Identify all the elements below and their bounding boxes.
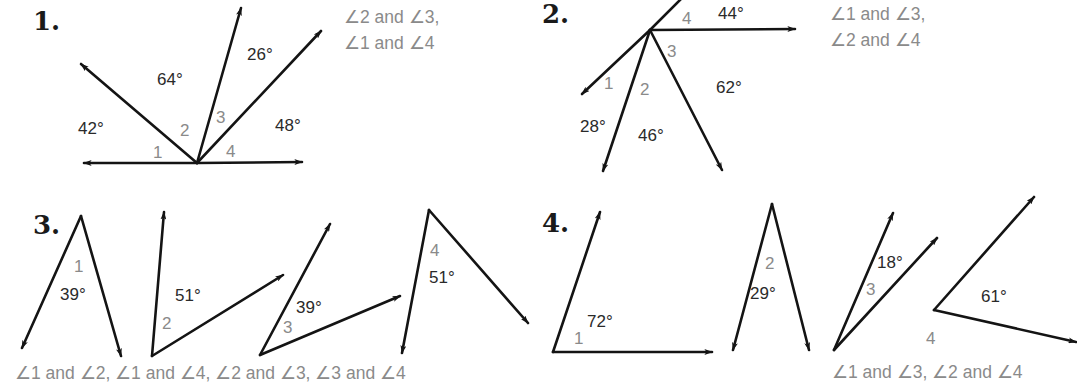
angle-label: 2 — [162, 314, 171, 333]
angle-label: 1 — [574, 329, 583, 348]
problem-number: 3. — [33, 210, 60, 240]
answer-text: ∠2 and ∠3, — [344, 7, 439, 27]
angle-4-diagram — [934, 197, 1076, 342]
problem-3: 3. 1 39° 51° 2 39° 3 4 51° ∠1 and ∠2, ∠1… — [15, 210, 528, 383]
degree-label: 39° — [296, 298, 322, 317]
ray — [934, 310, 1076, 342]
angle-3-diagram — [834, 213, 937, 350]
degree-label: 51° — [429, 268, 455, 287]
ray — [152, 212, 164, 356]
answer-text: ∠1 and ∠3, ∠2 and ∠4 — [832, 362, 1023, 382]
ray — [260, 296, 400, 355]
angle-label: 4 — [430, 241, 439, 260]
degree-label: 44° — [718, 4, 744, 23]
angle-label: 2 — [765, 254, 774, 273]
angle-4-diagram — [402, 210, 528, 353]
ray-right — [650, 29, 795, 30]
degree-label: 29° — [750, 284, 776, 303]
problem-number: 1. — [33, 6, 60, 36]
ray-diagram — [81, 8, 321, 163]
problem-number: 4. — [542, 208, 569, 238]
degree-label: 28° — [580, 117, 606, 136]
angle-label: 4 — [682, 9, 691, 28]
answer-text: ∠1 and ∠3, — [830, 4, 925, 24]
ray — [152, 275, 283, 356]
answer-text: ∠1 and ∠4 — [344, 33, 435, 53]
angle-2-diagram — [733, 204, 809, 350]
ray — [402, 210, 429, 353]
angle-label: 3 — [866, 280, 875, 299]
degree-label: 26° — [247, 45, 273, 64]
ray-right — [197, 162, 302, 163]
degree-label: 64° — [157, 70, 183, 89]
degree-label: 72° — [587, 312, 613, 331]
angle-2-diagram — [152, 212, 283, 356]
angle-label: 1 — [74, 257, 83, 276]
ray-lower-right — [650, 30, 722, 170]
ray — [429, 210, 528, 323]
angle-label: 2 — [180, 121, 189, 140]
angle-3-diagram — [260, 224, 400, 355]
degree-label: 46° — [638, 126, 664, 145]
ray — [81, 216, 121, 356]
degree-label: 62° — [716, 78, 742, 97]
degree-label: 18° — [877, 253, 903, 272]
angle-label: 4 — [926, 329, 935, 348]
problem-number: 2. — [542, 0, 569, 29]
degree-label: 39° — [60, 285, 86, 304]
angle-worksheet: 1. 42° 64° 26° 48° 1 2 3 4 ∠2 and ∠3, ∠1… — [0, 0, 1077, 386]
angle-label: 2 — [640, 80, 649, 99]
ray — [733, 204, 772, 350]
problem-1: 1. 42° 64° 26° 48° 1 2 3 4 ∠2 and ∠3, ∠1… — [33, 6, 439, 163]
ray-up-right-line — [650, 0, 681, 30]
angle-label: 4 — [226, 142, 235, 161]
degree-label: 51° — [175, 286, 201, 305]
angle-label: 3 — [283, 318, 292, 337]
ray — [260, 224, 330, 355]
degree-label: 48° — [275, 116, 301, 135]
angle-label: 3 — [216, 108, 225, 127]
answer-text: ∠1 and ∠2, ∠1 and ∠4, ∠2 and ∠3, ∠3 and … — [15, 363, 406, 383]
ray — [834, 213, 893, 350]
degree-label: 42° — [78, 119, 104, 138]
ray — [772, 204, 809, 350]
angle-label: 1 — [604, 74, 613, 93]
problem-4: 4. 72° 1 2 29° 18° 3 61° 4 ∠1 and ∠3, ∠2… — [542, 197, 1076, 382]
problem-2: 2. 44° 62° 28° 46° 1 2 3 4 ∠1 and ∠3, ∠2… — [542, 0, 925, 171]
answer-text: ∠2 and ∠4 — [830, 30, 921, 50]
degree-label: 61° — [981, 287, 1007, 306]
angle-label: 1 — [153, 143, 162, 162]
angle-label: 3 — [667, 42, 676, 61]
